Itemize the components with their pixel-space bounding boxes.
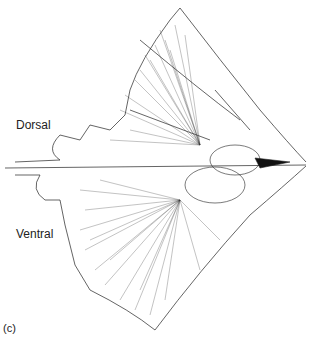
panel-label: (c) bbox=[3, 322, 16, 334]
dorsal-label: Dorsal bbox=[16, 118, 51, 132]
skate-nerve-illustration bbox=[0, 0, 312, 338]
ventral-label: Ventral bbox=[16, 227, 53, 241]
dorsal-nerve-fan bbox=[110, 25, 200, 145]
